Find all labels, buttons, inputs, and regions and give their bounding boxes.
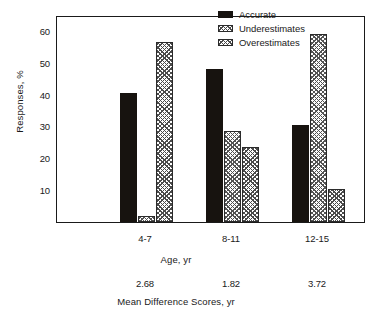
bar-accurate-4-7 — [120, 93, 137, 222]
y-axis-tick-labels: 102030405060 — [28, 16, 50, 223]
legend-label: Overestimates — [239, 38, 300, 48]
legend-swatch-icon-accurate — [218, 11, 233, 18]
x-axis-tick-label: 4-7 — [138, 234, 151, 244]
y-axis-tick-label: 50 — [40, 59, 50, 69]
y-axis-tick-label: 40 — [40, 91, 50, 101]
y-axis-tick-label: 30 — [40, 123, 50, 133]
x-axis-tick-labels: 4-78-1112-15 — [56, 234, 365, 246]
x-axis-tick-label: 8-11 — [222, 234, 240, 244]
legend-label: Accurate — [239, 10, 276, 20]
bar-over-12-15 — [328, 189, 345, 222]
mean-difference-scores-values: 2.681.823.72 — [56, 279, 365, 291]
mean-difference-score-value: 1.82 — [222, 279, 240, 289]
bar-over-4-7 — [156, 42, 173, 222]
legend-swatch-icon-under — [218, 25, 233, 32]
legend-item-over[interactable]: Overestimates — [218, 36, 328, 49]
legend: AccurateUnderestimatesOverestimates — [218, 8, 328, 50]
bar-over-8-11 — [242, 147, 259, 222]
x-axis-tick-label: 12-15 — [305, 234, 329, 244]
legend-swatch-icon-over — [218, 39, 233, 46]
y-axis-label: Responses, % — [14, 42, 25, 162]
bar-accurate-8-11 — [206, 69, 223, 222]
bar-under-8-11 — [224, 131, 241, 222]
bar-accurate-12-15 — [292, 125, 309, 222]
mean-difference-score-value: 3.72 — [308, 279, 326, 289]
legend-item-accurate[interactable]: Accurate — [218, 8, 328, 21]
mean-difference-scores-label: Mean Difference Scores, yr — [56, 296, 296, 307]
mean-difference-score-value: 2.68 — [136, 279, 154, 289]
y-axis-tick-label: 20 — [40, 155, 50, 165]
bar-under-12-15 — [310, 34, 327, 222]
bar-chart-figure: Responses, % 102030405060 AccurateUndere… — [0, 0, 381, 309]
bar-under-4-7 — [138, 216, 155, 222]
x-axis-label: Age, yr — [56, 254, 296, 265]
y-axis-tick-label: 60 — [40, 27, 50, 37]
y-axis-tick-label: 10 — [40, 186, 50, 196]
legend-item-under[interactable]: Underestimates — [218, 22, 328, 35]
legend-label: Underestimates — [239, 24, 305, 34]
